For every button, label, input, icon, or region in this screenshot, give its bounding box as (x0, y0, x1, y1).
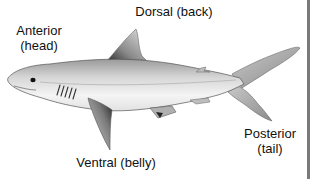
ventral-label: Ventral (belly) (70, 155, 162, 170)
caudal-fin-lower (228, 86, 272, 121)
shark-orientation-diagram: Anterior (head) Dorsal (back) Ventral (b… (0, 0, 312, 179)
posterior-term: Posterior (238, 126, 302, 141)
dorsal-label: Dorsal (back) (128, 4, 220, 19)
dorsal-text: Dorsal (back) (128, 4, 220, 19)
pelvic-fin (150, 106, 176, 118)
dorsal-fin (106, 29, 146, 62)
anterior-term: Anterior (8, 23, 70, 38)
eye (30, 78, 35, 82)
posterior-descriptor: (tail) (238, 141, 302, 156)
anterior-descriptor: (head) (8, 38, 70, 53)
ventral-text: Ventral (belly) (70, 155, 162, 170)
posterior-label: Posterior (tail) (238, 126, 302, 156)
frame-border (307, 0, 310, 179)
anterior-label: Anterior (head) (8, 23, 70, 53)
